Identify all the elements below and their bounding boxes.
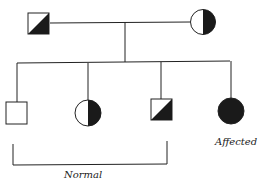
father-symbol	[28, 13, 49, 34]
child4-symbol	[218, 98, 244, 124]
child2-symbol	[75, 100, 101, 126]
child3-symbol	[151, 99, 172, 120]
sibship-line	[17, 61, 230, 63]
mother-symbol	[191, 10, 216, 35]
affected-label: Affected	[214, 136, 257, 147]
child1-symbol	[6, 102, 27, 124]
normal-label: Normal	[63, 169, 102, 180]
normal-bracket	[13, 141, 167, 165]
pedigree-diagram: Affected Normal	[0, 0, 260, 182]
marriage-line	[50, 22, 190, 23]
